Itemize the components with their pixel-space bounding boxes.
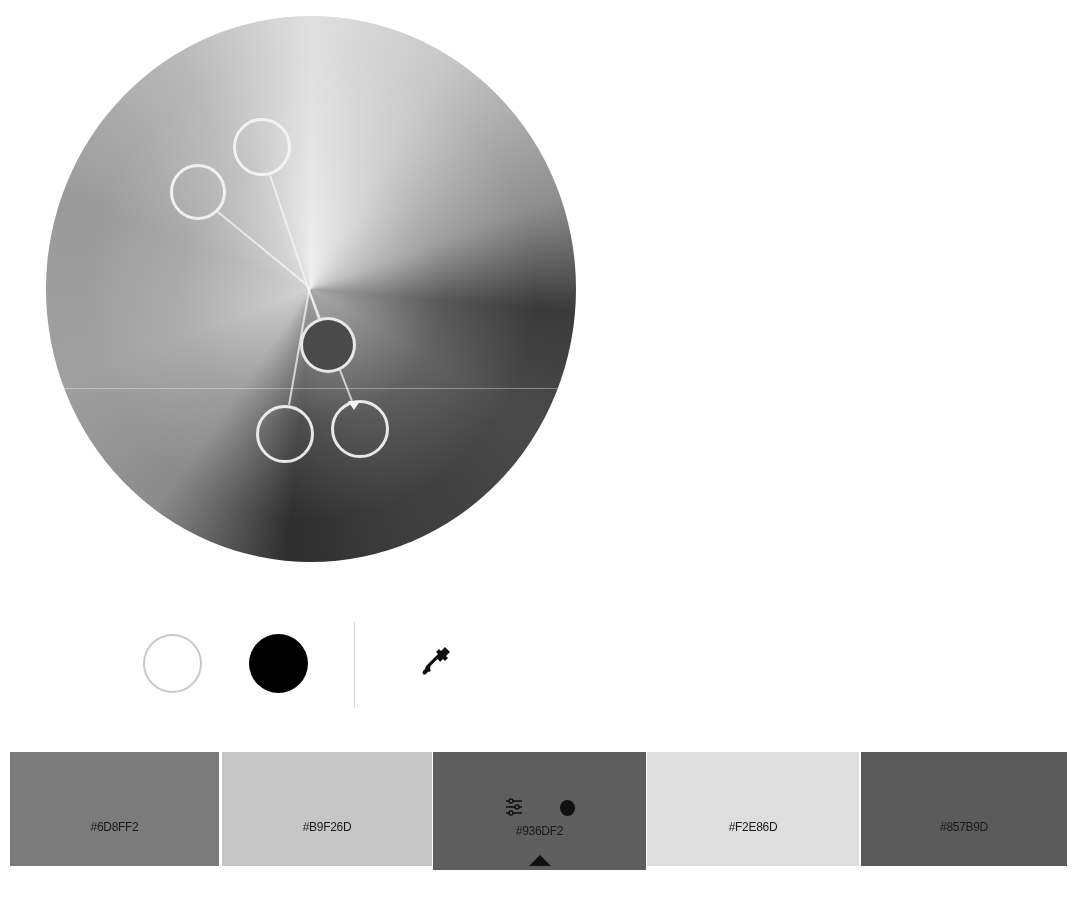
- tools-divider: [354, 622, 355, 708]
- swatch-3[interactable]: #936DF2: [433, 752, 646, 870]
- swatch-hex-label[interactable]: #B9F26D: [303, 820, 352, 834]
- sliders-icon[interactable]: [505, 798, 523, 816]
- swatch-hex-label[interactable]: #857B9D: [940, 820, 988, 834]
- swatch-hex-label[interactable]: #F2E86D: [729, 820, 778, 834]
- swatch-4[interactable]: #F2E86D: [647, 752, 859, 866]
- swatch-hex-label[interactable]: #6D8FF2: [91, 820, 139, 834]
- eyedropper-icon: [414, 642, 460, 688]
- eyedropper-button[interactable]: [414, 642, 460, 688]
- wheel-handle-2[interactable]: [170, 164, 226, 220]
- swatch-hex-label[interactable]: #936DF2: [516, 824, 563, 838]
- wheel-guide-line: [46, 388, 576, 389]
- wheel-handle-4[interactable]: [256, 405, 314, 463]
- wheel-handle-5[interactable]: [331, 400, 389, 458]
- color-wheel-app: #6D8FF2#B9F26D#936DF2#F2E86D#857B9D: [0, 0, 1082, 900]
- swatch-1[interactable]: #6D8FF2: [10, 752, 219, 866]
- base-marker-icon: [348, 401, 360, 410]
- swatch-tools: [505, 798, 585, 820]
- swatch-2[interactable]: #B9F26D: [222, 752, 432, 866]
- base-color-triangle-icon: [529, 855, 551, 866]
- wheel-handle-base[interactable]: [300, 317, 356, 373]
- color-dot-icon[interactable]: [560, 800, 575, 816]
- wheel-handle-1[interactable]: [233, 118, 291, 176]
- white-color-button[interactable]: [143, 634, 202, 693]
- swatch-5[interactable]: #857B9D: [861, 752, 1067, 866]
- black-color-button[interactable]: [249, 634, 308, 693]
- color-wheel[interactable]: [46, 16, 576, 562]
